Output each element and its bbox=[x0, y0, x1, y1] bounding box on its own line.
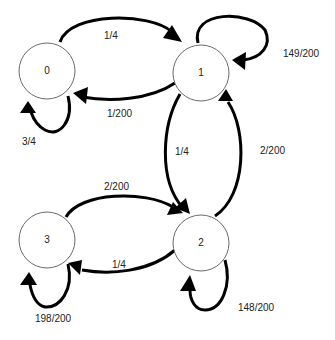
edge-1-to-0: 1/200 bbox=[73, 83, 175, 119]
edge-label: 148/200 bbox=[238, 302, 275, 313]
node-label: 3 bbox=[44, 234, 50, 245]
node-label: 0 bbox=[44, 65, 50, 76]
edge-label: 198/200 bbox=[35, 313, 72, 324]
edge-3-to-3: 198/200 bbox=[20, 264, 72, 324]
edge-label: 1/200 bbox=[107, 108, 132, 119]
arrowhead-icon bbox=[20, 272, 37, 285]
edge-3-to-2: 2/200 bbox=[66, 181, 183, 217]
edge-label: 3/4 bbox=[22, 136, 36, 147]
state-node-0: 0 bbox=[19, 43, 75, 99]
arrowhead-icon bbox=[73, 87, 88, 104]
state-node-1: 1 bbox=[173, 45, 229, 101]
edge-label: 149/200 bbox=[283, 48, 320, 59]
arrowhead-icon bbox=[20, 101, 36, 113]
edge-2-to-1: 2/200 bbox=[215, 89, 285, 216]
arrowhead-icon bbox=[180, 275, 196, 291]
edge-label: 1/4 bbox=[175, 146, 189, 157]
edge-label: 2/200 bbox=[260, 145, 285, 156]
edge-0-to-0: 3/4 bbox=[20, 96, 69, 147]
edge-label: 1/4 bbox=[104, 30, 118, 41]
arrowhead-icon bbox=[232, 52, 246, 70]
node-label: 2 bbox=[198, 237, 204, 248]
edge-1-to-2: 1/4 bbox=[165, 94, 190, 214]
state-diagram: 1/4 1/200 3/4 149/200 1/4 2/200 2/200 bbox=[0, 0, 335, 340]
edge-label: 1/4 bbox=[112, 259, 126, 270]
edge-2-to-3: 1/4 bbox=[68, 250, 175, 275]
state-node-3: 3 bbox=[19, 212, 75, 268]
edge-label: 2/200 bbox=[104, 181, 129, 192]
state-node-2: 2 bbox=[173, 215, 229, 271]
node-label: 1 bbox=[198, 67, 204, 78]
edge-0-to-1: 1/4 bbox=[60, 18, 182, 42]
